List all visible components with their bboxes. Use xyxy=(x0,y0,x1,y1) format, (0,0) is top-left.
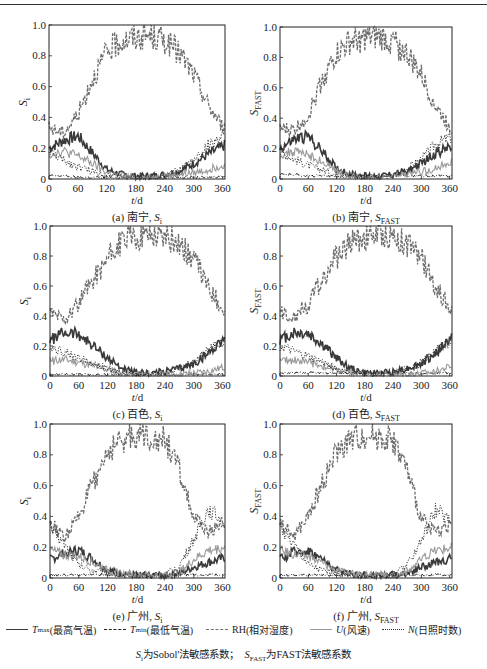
footnote: Si为Sobol'法敏感系数； SFAST为FAST法敏感系数 xyxy=(0,646,487,663)
footnote-sub: FAST xyxy=(250,655,267,663)
x-tick-label: 60 xyxy=(303,581,315,593)
y-tick-label: 0.2 xyxy=(263,541,277,553)
legend-label: (最高气温) xyxy=(50,622,97,637)
x-tick-label: 360 xyxy=(441,581,458,593)
x-tick-label: 180 xyxy=(357,581,374,593)
legend-label: (日照时数) xyxy=(415,622,462,637)
y-tick-label: 0.8 xyxy=(263,448,277,460)
legend-swatch-dashed xyxy=(206,629,228,630)
y-tick-label: 0.4 xyxy=(263,510,277,522)
series-rh xyxy=(280,424,452,541)
legend-symbol: RH xyxy=(232,624,246,635)
legend-swatch-dashdot xyxy=(104,629,126,630)
legend-label: (相对湿度) xyxy=(246,622,293,637)
legend-item-rh: RH(相对湿度) xyxy=(206,622,293,637)
legend-item-n: N(日照时数) xyxy=(382,622,461,637)
plot-area: 00.20.40.60.81.0060120180240300360 xyxy=(0,0,487,669)
legend-sub: max xyxy=(38,626,50,634)
legend-swatch-thin xyxy=(310,629,332,630)
x-tick-label: 300 xyxy=(413,581,430,593)
x-tick-label: 240 xyxy=(385,581,402,593)
legend-symbol: U xyxy=(336,624,343,635)
legend: Tmax(最高气温) Tmin(最低气温) RH(相对湿度) U(风速) N(日… xyxy=(0,622,487,638)
x-tick-label: 0 xyxy=(277,581,283,593)
footnote-text: 为FAST法敏感系数 xyxy=(266,649,351,660)
legend-swatch-dotted xyxy=(382,629,404,630)
legend-swatch-solid xyxy=(6,629,28,630)
y-tick-label: 1.0 xyxy=(263,418,277,430)
footnote-text: 为Sobol'法敏感系数； xyxy=(143,649,239,660)
y-axis-label: SFAST xyxy=(247,486,263,516)
legend-label: (风速) xyxy=(343,622,370,637)
legend-label: (最低气温) xyxy=(146,622,193,637)
legend-item-tmax: Tmax(最高气温) xyxy=(6,622,96,637)
x-tick-label: 120 xyxy=(328,581,345,593)
y-tick-label: 0.6 xyxy=(263,479,277,491)
legend-symbol: N xyxy=(408,624,415,635)
legend-item-tmin: Tmin(最低气温) xyxy=(104,622,193,637)
legend-item-u: U(风速) xyxy=(310,622,370,637)
x-axis-label: t/d xyxy=(336,593,396,605)
legend-sub: min xyxy=(136,626,147,634)
